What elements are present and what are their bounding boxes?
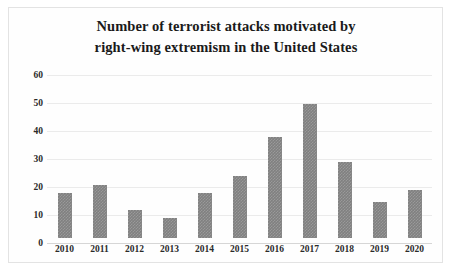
- x-axis-tick-label: 2010: [47, 243, 82, 255]
- chart-figure: Number of terrorist attacks motivated by…: [0, 0, 451, 271]
- y-axis-tick-label: 10: [9, 210, 43, 220]
- chart-title-line-1: Number of terrorist attacks motivated by: [28, 16, 424, 37]
- y-axis: 0102030405060: [5, 70, 43, 243]
- chart-title: Number of terrorist attacks motivated by…: [28, 16, 424, 58]
- bar-series: [47, 70, 432, 238]
- bar-slot: [82, 70, 117, 238]
- y-axis-tick-label: 0: [9, 238, 43, 248]
- chart-title-line-2: right-wing extremism in the United State…: [28, 37, 424, 58]
- x-axis-tick-label: 2013: [152, 243, 187, 255]
- x-axis-tick-label: 2017: [292, 243, 327, 255]
- y-axis-tick-label: 20: [9, 182, 43, 192]
- bar-slot: [117, 70, 152, 238]
- bar-2020: [408, 190, 422, 238]
- bar-2018: [338, 162, 352, 238]
- bar-2017: [303, 104, 317, 238]
- x-axis: 2010201120122013201420152016201720182019…: [47, 243, 432, 259]
- bar-2019: [373, 202, 387, 238]
- bar-2015: [233, 176, 247, 238]
- bar-slot: [292, 70, 327, 238]
- bar-2016: [268, 137, 282, 238]
- x-axis-tick-label: 2015: [222, 243, 257, 255]
- y-axis-tick-label: 50: [9, 98, 43, 108]
- bar-slot: [222, 70, 257, 238]
- x-axis-tick-label: 2016: [257, 243, 292, 255]
- bar-2011: [93, 185, 107, 238]
- x-axis-tick-label: 2020: [397, 243, 432, 255]
- bar-2014: [198, 193, 212, 238]
- bar-slot: [152, 70, 187, 238]
- bar-slot: [47, 70, 82, 238]
- x-axis-tick-label: 2014: [187, 243, 222, 255]
- y-axis-tick-label: 30: [9, 154, 43, 164]
- bar-2013: [163, 218, 177, 238]
- bar-slot: [362, 70, 397, 238]
- bar-2012: [128, 210, 142, 238]
- bar-slot: [397, 70, 432, 238]
- bar-slot: [327, 70, 362, 238]
- x-axis-tick-label: 2019: [362, 243, 397, 255]
- y-axis-tick-label: 40: [9, 126, 43, 136]
- x-axis-tick-label: 2018: [327, 243, 362, 255]
- x-axis-tick-label: 2011: [82, 243, 117, 255]
- x-axis-tick-label: 2012: [117, 243, 152, 255]
- bar-slot: [187, 70, 222, 238]
- bar-slot: [257, 70, 292, 238]
- y-axis-tick-label: 60: [9, 70, 43, 80]
- bar-2010: [58, 193, 72, 238]
